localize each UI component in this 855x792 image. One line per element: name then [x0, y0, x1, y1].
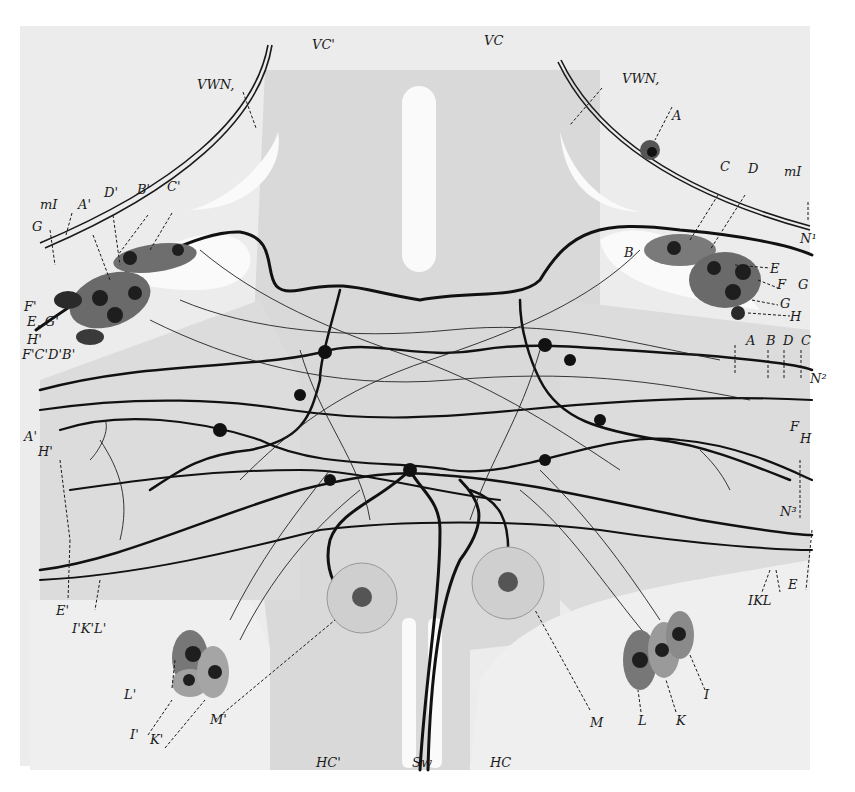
label-c-right: C [720, 160, 730, 173]
label-fcdb-prime: F'C'D'B' [22, 348, 75, 361]
label-l-prime: L' [124, 688, 136, 701]
label-d-prime: D' [104, 186, 118, 199]
label-vwn-left: VWN, [197, 78, 234, 91]
label-k: K [676, 714, 686, 727]
label-ikl-prime: I'K'L' [72, 622, 106, 635]
label-a-prime: A' [78, 198, 91, 211]
label-sw: Sw [412, 756, 432, 769]
label-hc-left: HC' [316, 756, 341, 769]
label-h-lower-right: H [800, 432, 811, 445]
label-i-prime: I' [130, 728, 139, 741]
label-e-prime: E' [56, 604, 69, 617]
left-band [40, 300, 300, 600]
label-a-right: A [746, 334, 755, 347]
label-f-lower-right: F [790, 420, 799, 433]
label-n1: N¹ [800, 232, 817, 245]
label-g1-right: G [798, 278, 808, 291]
label-vc-right: VC [484, 34, 503, 47]
label-i: I [704, 688, 709, 701]
label-f-right: F [777, 278, 786, 291]
label-e-right: E [770, 262, 780, 275]
label-n3: N³ [780, 505, 797, 518]
label-d2-right: D [783, 334, 793, 347]
label-h-prime-upper: H' [27, 333, 42, 346]
neuron-diagram [0, 0, 855, 792]
label-c2-right: C [801, 334, 811, 347]
label-m-prime: M' [210, 713, 227, 726]
label-g-left: G [32, 220, 42, 233]
ventral-slit-left [402, 618, 416, 768]
left-cell-cluster [54, 238, 199, 345]
label-h-prime-lower: H' [38, 445, 53, 458]
label-vwn-right: VWN, [622, 72, 659, 85]
label-mi-right: mI [784, 165, 801, 178]
label-a-prime-lower: A' [24, 430, 37, 443]
label-h-right: H [790, 310, 801, 323]
label-a-top: A [672, 109, 681, 122]
label-e-lower-right: E [788, 578, 798, 591]
label-n2: N² [810, 372, 827, 385]
label-vc-left: VC' [312, 38, 335, 51]
membrane-left [45, 45, 272, 248]
membrane-left-2 [40, 45, 268, 243]
label-l: L [638, 714, 647, 727]
large-cell-m [472, 547, 544, 619]
label-mi-left: mI [40, 198, 57, 211]
label-f-prime: F' [24, 300, 37, 313]
label-hc-right: HC [490, 756, 511, 769]
large-cell-m-prime [327, 563, 397, 633]
label-c-prime: C' [167, 180, 181, 193]
label-ikl: IKL [748, 594, 771, 607]
label-g2-right: G [780, 297, 790, 310]
label-b-right: B [624, 246, 634, 259]
label-b-prime: B' [137, 183, 150, 196]
label-k-prime: K' [150, 733, 163, 746]
label-b2-right: B [766, 334, 776, 347]
label-d-right: D [748, 162, 758, 175]
label-m: M [590, 716, 603, 729]
label-e-g-prime: E, G' [27, 315, 59, 328]
dorsal-slit [402, 86, 436, 272]
